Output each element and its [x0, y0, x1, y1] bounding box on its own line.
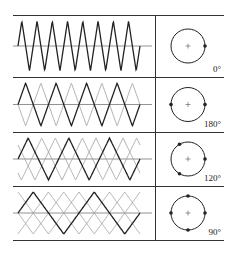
phase-dot — [203, 103, 207, 107]
phase-dot — [203, 211, 207, 215]
phase-dot — [186, 228, 190, 232]
center-cross-icon — [186, 211, 191, 216]
phase-dot — [178, 172, 182, 176]
phase-dot — [186, 194, 190, 198]
row-4: 90° — [13, 192, 221, 237]
phase-angle-label: 180° — [204, 119, 222, 129]
phase-dot — [169, 211, 173, 215]
phase-angle-label: 0° — [213, 64, 222, 74]
row-2: 180° — [13, 83, 221, 129]
phase-angle-label: 120° — [204, 173, 222, 183]
phase-dot — [203, 44, 207, 48]
phase-dot — [178, 142, 182, 146]
center-cross-icon — [186, 157, 191, 162]
center-cross-icon — [186, 44, 191, 49]
phase-diagram: 0°180°120°90° — [0, 0, 237, 256]
phase-dot — [203, 157, 207, 161]
row-1: 0° — [13, 21, 221, 74]
phase-angle-label: 90° — [208, 227, 221, 237]
phase-dot — [169, 103, 173, 107]
row-3: 120° — [13, 138, 221, 183]
center-cross-icon — [186, 102, 191, 107]
